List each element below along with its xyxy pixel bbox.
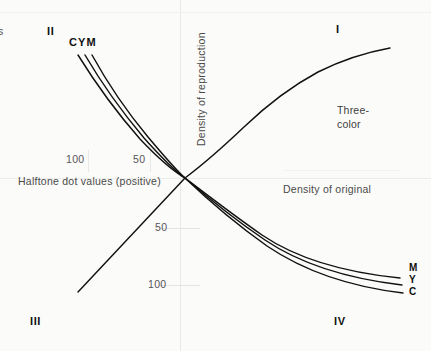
series-label-m: M: [409, 262, 418, 274]
series-label-c: C: [409, 286, 417, 298]
quadrant-label-iii: III: [30, 315, 41, 327]
quadrant-label-iv: IV: [334, 315, 346, 327]
quadrant-label-ii: II: [47, 25, 54, 37]
tone-reproduction-diagram: s II I III IV CYM Three- color M Y C Den…: [0, 0, 431, 351]
axis-label-halftone-dot-values: Halftone dot values (positive): [18, 176, 161, 188]
curve-halftone-transfer: [78, 178, 185, 292]
axis-label-density-of-original: Density of original: [283, 184, 371, 196]
tick-label-upper-left-50: 50: [133, 154, 145, 166]
series-label-three-color-line2: color: [337, 119, 361, 131]
axis-label-density-of-reproduction: Density of reproduction: [196, 32, 208, 146]
tick-label-upper-left-100: 100: [66, 154, 84, 166]
tick-label-lower-left-50: 50: [155, 222, 167, 234]
quadrant-label-i: I: [336, 23, 340, 35]
series-label-cym: CYM: [69, 36, 97, 48]
edge-fragment-glyph: s: [0, 26, 3, 38]
series-label-y: Y: [409, 274, 416, 286]
tick-label-lower-left-100: 100: [148, 279, 166, 291]
series-label-three-color-line1: Three-: [337, 105, 369, 117]
